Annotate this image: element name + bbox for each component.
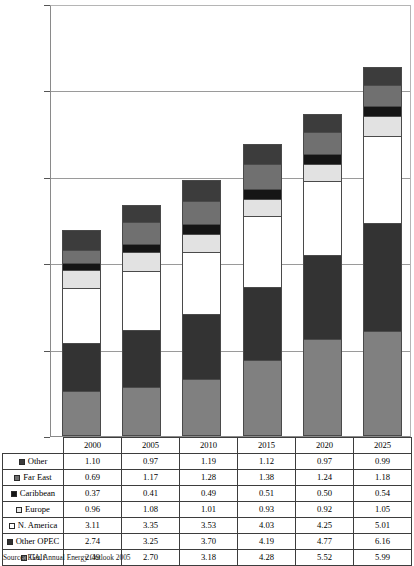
bar-segment-europe-2020 bbox=[304, 165, 341, 182]
table-cell: 1.08 bbox=[122, 502, 180, 518]
table-cell: 0.93 bbox=[238, 502, 296, 518]
bar-2020 bbox=[303, 114, 342, 436]
bar-segment-other-2005 bbox=[123, 206, 160, 224]
table-cell: 4.19 bbox=[238, 534, 296, 550]
table-cell: 0.41 bbox=[122, 486, 180, 502]
legend-swatch-icon bbox=[9, 523, 15, 529]
bar-segment-caribbean-2000 bbox=[63, 264, 100, 271]
bar-segment-gulf-2020 bbox=[304, 340, 341, 435]
legend-row-caribbean: Caribbean bbox=[3, 486, 64, 502]
bar-2005 bbox=[122, 205, 161, 436]
bar-segment-n-america-2010 bbox=[183, 253, 220, 315]
table-cell: 4.25 bbox=[296, 518, 354, 534]
table-cell: 1.19 bbox=[180, 454, 238, 470]
table-cell: 1.01 bbox=[180, 502, 238, 518]
legend-swatch-icon bbox=[14, 475, 20, 481]
table-cell: 3.70 bbox=[180, 534, 238, 550]
bar-segment-gulf-2005 bbox=[123, 388, 160, 435]
table-body: Other1.100.971.191.120.970.99Far East0.6… bbox=[3, 454, 412, 566]
bar-segment-gulf-2000 bbox=[63, 392, 100, 435]
bar-segment-europe-2010 bbox=[183, 235, 220, 253]
table-cell: 0.51 bbox=[238, 486, 296, 502]
bar-segment-far-east-2025 bbox=[364, 86, 401, 107]
table-cell: 1.17 bbox=[122, 470, 180, 486]
gridline-20 bbox=[51, 91, 410, 92]
table-cell: 6.16 bbox=[354, 534, 412, 550]
legend-swatch-icon bbox=[16, 507, 22, 513]
plot-area bbox=[50, 5, 411, 437]
bar-segment-n-america-2005 bbox=[123, 272, 160, 331]
table-col-header-2025: 2025 bbox=[354, 438, 412, 454]
bar-segment-far-east-2020 bbox=[304, 133, 341, 155]
bar-2010 bbox=[182, 180, 221, 436]
table-cell: 0.96 bbox=[64, 502, 122, 518]
bar-segment-n-america-2020 bbox=[304, 182, 341, 256]
table-cell: 4.77 bbox=[296, 534, 354, 550]
table-cell: 5.52 bbox=[296, 550, 354, 566]
bar-segment-other-opec-2005 bbox=[123, 331, 160, 388]
table-cell: 1.10 bbox=[64, 454, 122, 470]
table-cell: 1.12 bbox=[238, 454, 296, 470]
legend-row-other-opec: Other OPEC bbox=[3, 534, 64, 550]
legend-label: Other OPEC bbox=[16, 536, 60, 546]
legend-label: Other bbox=[28, 456, 48, 466]
gridline-5 bbox=[51, 351, 410, 352]
bar-segment-caribbean-2015 bbox=[244, 190, 281, 200]
bar-segment-europe-2005 bbox=[123, 253, 160, 273]
table-cell: 1.38 bbox=[238, 470, 296, 486]
bar-segment-gulf-2010 bbox=[183, 380, 220, 435]
bar-segment-gulf-2015 bbox=[244, 361, 281, 435]
legend-row-n-america: N. America bbox=[3, 518, 64, 534]
legend-swatch-icon bbox=[7, 539, 13, 545]
bar-segment-gulf-2025 bbox=[364, 332, 401, 436]
table-row: Other OPEC2.743.253.704.194.776.16 bbox=[3, 534, 412, 550]
table-cell: 3.35 bbox=[122, 518, 180, 534]
table-cell: 1.05 bbox=[354, 502, 412, 518]
source-note: Source: EIA, Annual Energy Outlook 2005 bbox=[3, 553, 131, 562]
table-cell: 2.74 bbox=[64, 534, 122, 550]
table-cell: 0.37 bbox=[64, 486, 122, 502]
bar-segment-caribbean-2020 bbox=[304, 155, 341, 165]
table-cell: 0.99 bbox=[354, 454, 412, 470]
bar-segment-far-east-2000 bbox=[63, 251, 100, 264]
legend-label: Europe bbox=[25, 504, 50, 514]
table-cell: 0.49 bbox=[180, 486, 238, 502]
table-cell: 0.69 bbox=[64, 470, 122, 486]
table-col-header-2005: 2005 bbox=[122, 438, 180, 454]
bar-segment-other-opec-2000 bbox=[63, 344, 100, 392]
legend-label: Far East bbox=[23, 472, 51, 482]
legend-row-other: Other bbox=[3, 454, 64, 470]
table-row: Caribbean0.370.410.490.510.500.54 bbox=[3, 486, 412, 502]
table-cell: 4.28 bbox=[238, 550, 296, 566]
gridline-10 bbox=[51, 264, 410, 265]
bar-segment-other-opec-2015 bbox=[244, 288, 281, 361]
stacked-bar-chart: 0510152025 bbox=[0, 0, 414, 440]
table-cell: 5.01 bbox=[354, 518, 412, 534]
bar-segment-caribbean-2010 bbox=[183, 225, 220, 234]
table-col-header-2015: 2015 bbox=[238, 438, 296, 454]
table-col-header-2010: 2010 bbox=[180, 438, 238, 454]
table-cell: 0.97 bbox=[122, 454, 180, 470]
table-row: Far East0.691.171.281.381.241.18 bbox=[3, 470, 412, 486]
bar-2000 bbox=[62, 230, 101, 436]
table-row: Europe0.961.081.010.930.921.05 bbox=[3, 502, 412, 518]
table-cell: 3.25 bbox=[122, 534, 180, 550]
gridline-15 bbox=[51, 178, 410, 179]
bar-segment-n-america-2025 bbox=[364, 137, 401, 225]
table-cell: 0.92 bbox=[296, 502, 354, 518]
legend-row-europe: Europe bbox=[3, 502, 64, 518]
bar-segment-caribbean-2025 bbox=[364, 107, 401, 117]
table-col-header-2000: 2000 bbox=[64, 438, 122, 454]
data-table: 200020052010201520202025 Other1.100.971.… bbox=[2, 437, 412, 566]
bar-segment-other-opec-2025 bbox=[364, 224, 401, 331]
table-cell: 1.28 bbox=[180, 470, 238, 486]
bar-segment-far-east-2010 bbox=[183, 202, 220, 225]
bar-segment-other-2025 bbox=[364, 68, 401, 86]
bar-segment-europe-2015 bbox=[244, 200, 281, 217]
table-cell: 1.24 bbox=[296, 470, 354, 486]
table-header-row: 200020052010201520202025 bbox=[3, 438, 412, 454]
table-cell: 3.18 bbox=[180, 550, 238, 566]
table-cell: 3.11 bbox=[64, 518, 122, 534]
bar-segment-caribbean-2005 bbox=[123, 245, 160, 253]
bar-segment-far-east-2015 bbox=[244, 165, 281, 190]
